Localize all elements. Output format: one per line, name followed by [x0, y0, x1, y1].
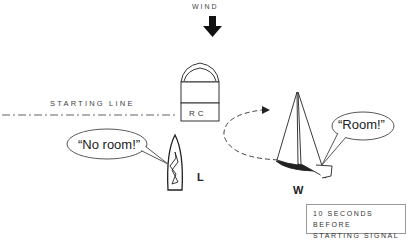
wind-label: WIND: [192, 3, 219, 10]
wind-arrow-icon: [203, 16, 222, 37]
caption-line-1: 10 SECONDS BEFORE: [313, 208, 405, 230]
caption-box: 10 SECONDS BEFORE STARTING SIGNAL: [306, 204, 406, 234]
arrowhead-icon: [262, 106, 270, 114]
speech-text-l: “No room!”: [78, 137, 140, 152]
starting-line-label: STARTING LINE: [50, 99, 135, 108]
boat-w: [276, 92, 332, 178]
diagram-canvas: WIND STARTING LINE RC “No room!” “Room!”…: [0, 0, 413, 240]
boat-w-label: W: [293, 184, 303, 196]
committee-boat-label: RC: [189, 109, 207, 118]
caption-line-2: STARTING SIGNAL: [313, 230, 405, 240]
boat-l-label: L: [197, 171, 204, 183]
boat-l: [168, 135, 183, 190]
speech-text-w: “Room!”: [338, 117, 385, 132]
turn-path: [224, 106, 286, 160]
